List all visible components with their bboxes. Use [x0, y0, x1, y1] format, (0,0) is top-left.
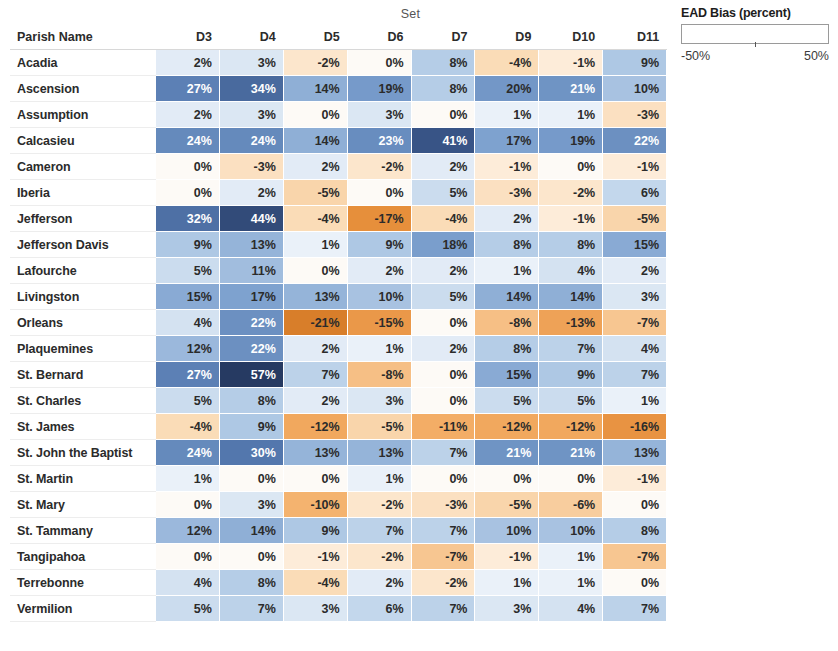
table-row: Vermilion5%7%3%6%7%3%4%7% — [11, 596, 667, 622]
heatmap-cell: 2% — [411, 336, 475, 362]
heatmap-cell: 0% — [219, 466, 283, 492]
table-row: St. John the Baptist24%30%13%13%7%21%21%… — [11, 440, 667, 466]
heatmap-cell: 0% — [156, 154, 220, 180]
heatmap-cell: 7% — [411, 596, 475, 622]
heatmap-cell: 0% — [347, 180, 411, 206]
heatmap-cell: 1% — [475, 258, 539, 284]
legend-min-label: -50% — [681, 49, 710, 63]
table-row: Jefferson32%44%-4%-17%-4%2%-1%-5% — [11, 206, 667, 232]
heatmap-page: Set Parish Name D3D4D5D6D7D9D10D11 Acadi… — [0, 0, 838, 651]
heatmap-cell: -21% — [283, 310, 347, 336]
row-label-parish: Plaquemines — [11, 336, 156, 362]
column-header-d9: D9 — [475, 24, 539, 50]
heatmap-cell: -10% — [283, 492, 347, 518]
heatmap-cell: 0% — [603, 492, 667, 518]
row-label-parish: St. Bernard — [11, 362, 156, 388]
heatmap-cell: 2% — [283, 336, 347, 362]
column-header-d5: D5 — [283, 24, 347, 50]
heatmap-cell: 15% — [603, 232, 667, 258]
heatmap-cell: 2% — [475, 206, 539, 232]
heatmap-cell: 0% — [283, 258, 347, 284]
heatmap-cell: 0% — [411, 388, 475, 414]
heatmap-cell: 0% — [539, 154, 603, 180]
heatmap-cell: 1% — [539, 544, 603, 570]
heatmap-cell: 11% — [219, 258, 283, 284]
heatmap-cell: 3% — [219, 50, 283, 76]
heatmap-cell: -15% — [347, 310, 411, 336]
heatmap-cell: 4% — [539, 258, 603, 284]
heatmap-cell: 1% — [283, 232, 347, 258]
heatmap-cell: 0% — [283, 466, 347, 492]
legend-gradient — [682, 25, 828, 43]
heatmap-cell: 8% — [539, 232, 603, 258]
heatmap-cell: -4% — [283, 206, 347, 232]
row-label-parish: Terrebonne — [11, 570, 156, 596]
header-row: Parish Name D3D4D5D6D7D9D10D11 — [11, 24, 667, 50]
heatmap-table-block: Set Parish Name D3D4D5D6D7D9D10D11 Acadi… — [10, 6, 666, 622]
heatmap-cell: -2% — [347, 492, 411, 518]
heatmap-cell: 6% — [347, 596, 411, 622]
heatmap-cell: -1% — [603, 154, 667, 180]
heatmap-cell: -2% — [283, 50, 347, 76]
heatmap-cell: 9% — [603, 50, 667, 76]
row-label-parish: St. James — [11, 414, 156, 440]
heatmap-cell: 1% — [475, 570, 539, 596]
table-row: Ascension27%34%14%19%8%20%21%10% — [11, 76, 667, 102]
row-label-parish: Cameron — [11, 154, 156, 180]
legend-colorbar — [681, 24, 829, 44]
heatmap-cell: -3% — [603, 102, 667, 128]
heatmap-cell: -16% — [603, 414, 667, 440]
heatmap-cell: 1% — [539, 570, 603, 596]
heatmap-cell: 13% — [219, 232, 283, 258]
heatmap-cell: -11% — [411, 414, 475, 440]
heatmap-cell: 57% — [219, 362, 283, 388]
heatmap-cell: -7% — [411, 544, 475, 570]
heatmap-cell: 7% — [283, 362, 347, 388]
heatmap-cell: -8% — [347, 362, 411, 388]
heatmap-cell: -1% — [475, 544, 539, 570]
heatmap-cell: 7% — [603, 596, 667, 622]
heatmap-cell: 15% — [156, 284, 220, 310]
column-group-title: Set — [155, 6, 666, 23]
heatmap-cell: 9% — [219, 414, 283, 440]
heatmap-cell: 0% — [603, 570, 667, 596]
legend-center-tick — [755, 42, 756, 47]
heatmap-cell: 7% — [411, 440, 475, 466]
row-label-parish: Vermilion — [11, 596, 156, 622]
legend: EAD Bias (percent) -50% 50% — [681, 6, 831, 63]
table-row: Orleans4%22%-21%-15%0%-8%-13%-7% — [11, 310, 667, 336]
heatmap-cell: 2% — [283, 154, 347, 180]
heatmap-cell: 23% — [347, 128, 411, 154]
heatmap-cell: 3% — [347, 388, 411, 414]
heatmap-cell: 24% — [219, 128, 283, 154]
heatmap-cell: 9% — [347, 232, 411, 258]
heatmap-cell: -1% — [603, 466, 667, 492]
heatmap-cell: 8% — [603, 518, 667, 544]
heatmap-cell: 8% — [475, 232, 539, 258]
table-row: Livingston15%17%13%10%5%14%14%3% — [11, 284, 667, 310]
row-label-parish: St. Martin — [11, 466, 156, 492]
row-label-parish: Tangipahoa — [11, 544, 156, 570]
heatmap-cell: 5% — [156, 388, 220, 414]
heatmap-cell: 0% — [411, 310, 475, 336]
heatmap-cell: 3% — [283, 596, 347, 622]
heatmap-cell: 20% — [475, 76, 539, 102]
heatmap-cell: 14% — [539, 284, 603, 310]
heatmap-cell: -4% — [283, 570, 347, 596]
table-row: Calcasieu24%24%14%23%41%17%19%22% — [11, 128, 667, 154]
table-row: St. Mary0%3%-10%-2%-3%-5%-6%0% — [11, 492, 667, 518]
column-header-parish-name: Parish Name — [11, 24, 156, 50]
heatmap-cell: 14% — [283, 128, 347, 154]
heatmap-cell: 14% — [283, 76, 347, 102]
heatmap-cell: 1% — [539, 102, 603, 128]
heatmap-cell: 14% — [219, 518, 283, 544]
column-header-d3: D3 — [156, 24, 220, 50]
heatmap-cell: 13% — [283, 440, 347, 466]
heatmap-cell: 8% — [411, 76, 475, 102]
heatmap-cell: 0% — [156, 492, 220, 518]
heatmap-cell: 1% — [347, 466, 411, 492]
table-row: Tangipahoa0%0%-1%-2%-7%-1%1%-7% — [11, 544, 667, 570]
heatmap-cell: -5% — [475, 492, 539, 518]
heatmap-cell: -12% — [539, 414, 603, 440]
table-row: Iberia0%2%-5%0%5%-3%-2%6% — [11, 180, 667, 206]
